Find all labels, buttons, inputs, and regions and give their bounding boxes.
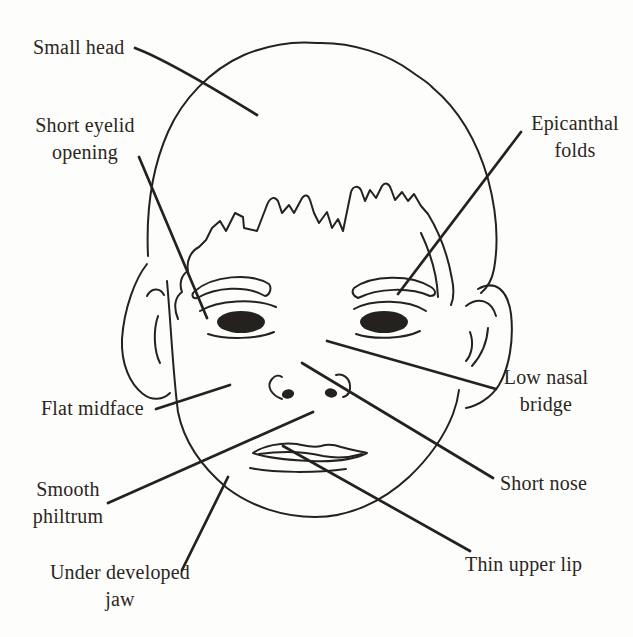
label-thin-upper-lip: Thin upper lip [465, 551, 582, 578]
ear-left-outer [122, 264, 170, 399]
face-line-drawing [0, 0, 633, 637]
label-short-nose: Short nose [500, 470, 587, 497]
label-epicanthal-folds: Epicanthalfolds [519, 110, 631, 164]
ear-right-inner [466, 301, 496, 366]
leader-under-developed-jaw [182, 477, 228, 570]
eyebrow-right [353, 278, 435, 298]
leader-thin-upper-lip [283, 446, 470, 551]
lower-lip [250, 468, 346, 472]
leader-smooth-philtrum [108, 412, 313, 503]
eyebrow-left [193, 277, 271, 298]
nostril-left [281, 388, 295, 400]
eye-right [360, 311, 408, 333]
label-under-developed-jaw: Under developedjaw [38, 559, 202, 613]
diagram-canvas: Small head Short eyelidopening Epicantha… [0, 0, 633, 637]
lip-seam [259, 452, 362, 457]
nostril-right [324, 388, 338, 399]
eyelid-upper-left [200, 301, 276, 311]
label-short-eyelid-opening: Short eyelidopening [26, 112, 144, 166]
hair-fringe [175, 184, 453, 319]
leader-low-nasal-bridge [327, 341, 496, 389]
leader-epicanthal-folds [398, 132, 521, 294]
eye-left [217, 311, 265, 333]
label-smooth-philtrum: Smoothphiltrum [19, 476, 117, 530]
nostril-wing-left [269, 376, 282, 399]
leader-flat-midface [156, 385, 230, 409]
label-small-head: Small head [33, 34, 124, 61]
ear-left-inner [147, 289, 164, 363]
label-low-nasal-bridge: Low nasalbridge [490, 364, 602, 418]
jaw-outline [167, 281, 459, 517]
label-flat-midface: Flat midface [41, 395, 144, 422]
eyelid-upper-right [354, 302, 426, 311]
